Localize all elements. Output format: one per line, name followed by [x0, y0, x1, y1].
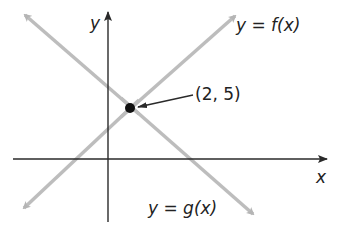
y-axis-label: y	[89, 13, 101, 33]
line-g	[25, 15, 253, 214]
f-label: y = f(x)	[235, 15, 300, 35]
function-graph: y x y = f(x) (2, 5) y = g(x)	[0, 0, 339, 232]
point-label: (2, 5)	[195, 84, 241, 104]
intersection-point	[125, 103, 135, 113]
x-axis-label: x	[315, 167, 327, 187]
g-label: y = g(x)	[147, 198, 217, 218]
